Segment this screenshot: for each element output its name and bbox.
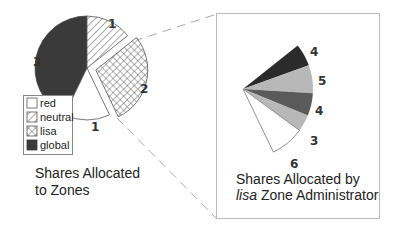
legend-label-red: red [40, 97, 56, 109]
label-global: 3 [33, 55, 41, 69]
legend-swatch-red [27, 98, 37, 108]
fan-label-3: 4 [315, 104, 323, 118]
caption-admin-line2: lisa Zone Administrator [236, 187, 379, 203]
caption-zones-line1: Shares Allocated [35, 165, 140, 181]
fan-label-2: 5 [318, 74, 326, 88]
legend: red neutral lisa global [24, 96, 74, 155]
zone-shares-diagram: 1 2 1 3 red neutral lisa global Shares A… [0, 0, 398, 228]
connector-line-top [134, 15, 214, 41]
legend-label-neutral: neutral [40, 111, 74, 123]
caption-zones-line2: to Zones [35, 182, 89, 198]
label-neutral: 1 [108, 17, 116, 31]
fan-label-1: 4 [310, 45, 318, 59]
legend-label-global: global [40, 139, 69, 151]
caption-admin-italic: lisa [236, 187, 257, 203]
legend-label-lisa: lisa [40, 125, 57, 137]
legend-swatch-lisa [27, 126, 37, 136]
fan-label-4: 3 [310, 134, 318, 148]
legend-swatch-global [27, 140, 37, 150]
caption-admin-rest: Zone Administrator [257, 187, 379, 203]
label-lisa: 2 [140, 82, 148, 96]
legend-swatch-neutral [27, 112, 37, 122]
caption-admin-line1: Shares Allocated by [236, 171, 360, 187]
fan-label-5: 6 [290, 157, 298, 171]
label-red: 1 [91, 120, 99, 134]
